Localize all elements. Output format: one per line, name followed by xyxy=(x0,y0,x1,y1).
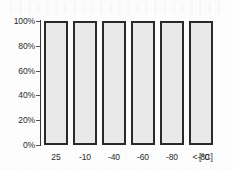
y-tick-label-0: 0% xyxy=(0,141,35,150)
plot-area xyxy=(40,21,225,145)
y-tick-label-60: 60% xyxy=(0,67,35,76)
y-tick-mark-0 xyxy=(36,145,40,146)
y-tick-label-40: 40% xyxy=(0,91,35,100)
bar-category-0 xyxy=(44,21,68,145)
bar-category-3 xyxy=(131,21,155,145)
x-axis-unit-label: [°C] xyxy=(199,152,233,162)
y-tick-label-80: 80% xyxy=(0,42,35,51)
bar-category-4 xyxy=(160,21,184,145)
y-tick-label-20: 20% xyxy=(0,116,35,125)
y-tick-label-100: 100% xyxy=(0,17,35,26)
bar-category-2 xyxy=(102,21,126,145)
bar-category-1 xyxy=(73,21,97,145)
bar-chart-figure: 100% 80% 60% 40% 20% 0% 25 -10 -40 -60 -… xyxy=(0,0,233,170)
bar-category-5 xyxy=(189,21,213,145)
